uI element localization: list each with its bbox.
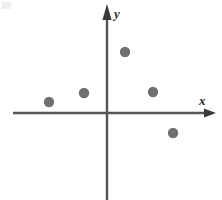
data-point [120, 47, 130, 57]
data-point [168, 128, 178, 138]
data-point [148, 87, 158, 97]
scatter-plot-figure: y x [0, 0, 222, 200]
data-point [79, 88, 89, 98]
x-axis-arrowhead [204, 108, 216, 117]
y-axis-label: y [114, 7, 120, 20]
data-point [44, 97, 54, 107]
coordinate-plane-svg [0, 0, 222, 200]
x-axis-label: x [199, 94, 206, 107]
y-axis-arrowhead [102, 4, 111, 20]
